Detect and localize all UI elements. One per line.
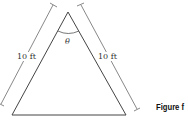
angle-theta-label: θ xyxy=(65,37,70,46)
right-side-label: 10 ft xyxy=(98,52,117,61)
triangle xyxy=(12,12,126,115)
left-side-label: 10 ft xyxy=(17,52,36,61)
figure-caption: Figure f xyxy=(156,102,184,112)
angle-arc xyxy=(58,31,79,34)
